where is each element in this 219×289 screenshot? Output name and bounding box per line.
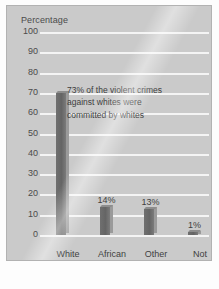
bar-front-face: [144, 209, 154, 235]
bar-front-face: [100, 207, 110, 235]
bar-group: 14%: [84, 32, 128, 235]
bar: [144, 209, 157, 235]
y-tick-label: 60: [14, 107, 38, 117]
chart-annotation: 73% of the violent crimes against whites…: [67, 84, 199, 121]
bar: [100, 207, 113, 235]
y-tick-label: 50: [14, 128, 38, 138]
plot-panel: Percentage 1009080706050403020100 14%13%…: [6, 5, 212, 261]
x-axis-category-labels: WhiteAfricanAmericanOtherNotknown: [46, 249, 212, 261]
gridline: [40, 235, 209, 237]
bar-value-label: 14%: [91, 195, 123, 205]
x-category-label-line: Not: [172, 249, 212, 261]
y-tick-label: 30: [14, 168, 38, 178]
bar-front-face: [188, 232, 198, 235]
bar-side-face: [154, 207, 157, 233]
bar-value-label: 13%: [135, 197, 167, 207]
annotation-line-3: committed by whites: [67, 109, 199, 121]
y-tick-label: 90: [14, 46, 38, 56]
y-tick-label: 40: [14, 148, 38, 158]
bar-group: 13%: [128, 32, 172, 235]
y-tick-label: 80: [14, 67, 38, 77]
annotation-line-1: 73% of the violent crimes: [67, 84, 199, 96]
annotation-line-2: against whites were: [67, 96, 199, 108]
bar-top-face: [188, 230, 201, 232]
bar-side-face: [110, 205, 113, 233]
bar-group: 1%: [172, 32, 212, 235]
bar-top-face: [100, 205, 113, 207]
bar-value-label: 1%: [179, 220, 211, 230]
y-tick-label: 20: [14, 188, 38, 198]
bar-chart-figure: Percentage 1009080706050403020100 14%13%…: [0, 0, 219, 289]
bar-group: [40, 32, 84, 235]
y-tick-label: 100: [14, 26, 38, 36]
y-tick-label: 10: [14, 209, 38, 219]
plot-area: 14%13%1%: [40, 32, 212, 235]
x-category-label: Notknown: [172, 249, 212, 261]
bar-top-face: [144, 207, 157, 209]
y-axis-title: Percentage: [21, 15, 68, 25]
bar-front-face: [56, 93, 66, 235]
bar: [188, 232, 201, 235]
x-category-label-line: American: [84, 261, 140, 262]
y-tick-label: 70: [14, 87, 38, 97]
y-tick-label: 0: [14, 229, 38, 239]
x-category-label-line: known: [172, 261, 212, 262]
